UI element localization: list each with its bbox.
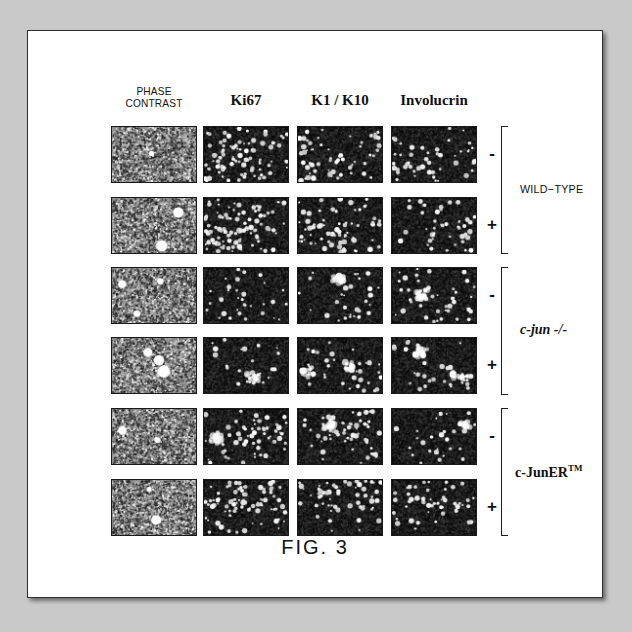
group-bracket-c-jun-null (501, 267, 508, 395)
micrograph-panel-c-juner-tm-plus-phase-contrast (111, 479, 197, 536)
micrograph-image (298, 198, 382, 253)
micrograph-panel-c-jun-null-minus-k1-k10 (297, 267, 383, 324)
micrograph-panel-wild-type-plus-k1-k10 (297, 197, 383, 254)
micrograph-image (298, 480, 382, 535)
patent-figure-page: PHASE CONTRAST Ki67 K1 / K10 Involucrin … (27, 30, 603, 598)
column-header-k1-k10: K1 / K10 (297, 93, 383, 109)
micrograph-image (392, 268, 476, 323)
micrograph-image (392, 480, 476, 535)
micrograph-image (298, 127, 382, 182)
micrograph-image (112, 268, 196, 323)
micrograph-panel-c-jun-null-plus-involucrin (391, 337, 477, 394)
micrograph-image (204, 480, 288, 535)
micrograph-image (392, 198, 476, 253)
column-header-involucrin: Involucrin (383, 93, 485, 109)
micrograph-image (298, 409, 382, 464)
figure-caption: FIG. 3 (28, 536, 602, 559)
column-header-line1: PHASE (114, 86, 193, 98)
micrograph-panel-wild-type-minus-phase-contrast (111, 126, 197, 183)
micrograph-panel-c-juner-tm-plus-k1-k10 (297, 479, 383, 536)
group-label-text: c-JunER (515, 465, 568, 480)
micrograph-panel-wild-type-minus-k1-k10 (297, 126, 383, 183)
treatment-sign-plus-row3: + (485, 355, 499, 375)
column-header-line1: Involucrin (383, 93, 485, 109)
micrograph-image (392, 127, 476, 182)
column-header-ki67: Ki67 (203, 93, 289, 109)
micrograph-panel-c-juner-tm-minus-involucrin (391, 408, 477, 465)
micrograph-panel-c-juner-tm-minus-phase-contrast (111, 408, 197, 465)
micrograph-panel-c-juner-tm-plus-involucrin (391, 479, 477, 536)
micrograph-panel-c-jun-null-plus-k1-k10 (297, 337, 383, 394)
treatment-sign-plus-row1: + (485, 215, 499, 235)
micrograph-panel-c-juner-tm-minus-ki67 (203, 408, 289, 465)
column-header-line1: Ki67 (203, 93, 289, 109)
micrograph-image (392, 409, 476, 464)
micrograph-image (204, 338, 288, 393)
micrograph-panel-wild-type-plus-phase-contrast (111, 197, 197, 254)
group-label-wild-type: WILD−TYPE (520, 183, 583, 195)
micrograph-image (204, 198, 288, 253)
micrograph-image (204, 268, 288, 323)
micrograph-image (112, 127, 196, 182)
group-bracket-wild-type (501, 126, 508, 254)
micrograph-panel-c-jun-null-minus-ki67 (203, 267, 289, 324)
micrograph-panel-c-jun-null-minus-involucrin (391, 267, 477, 324)
column-header-line2: CONTRAST (114, 98, 193, 110)
group-label-c-juner-tm: c-JunERTM (515, 463, 582, 481)
micrograph-image (392, 338, 476, 393)
column-header-phase-contrast: PHASE CONTRAST (114, 86, 193, 109)
micrograph-panel-wild-type-plus-involucrin (391, 197, 477, 254)
micrograph-panel-wild-type-minus-ki67 (203, 126, 289, 183)
micrograph-image (298, 268, 382, 323)
micrograph-image (112, 338, 196, 393)
micrograph-panel-wild-type-minus-involucrin (391, 126, 477, 183)
micrograph-panel-c-jun-null-minus-phase-contrast (111, 267, 197, 324)
micrograph-image (112, 409, 196, 464)
figure-3-container: PHASE CONTRAST Ki67 K1 / K10 Involucrin … (28, 31, 602, 597)
micrograph-panel-c-juner-tm-plus-ki67 (203, 479, 289, 536)
treatment-sign-minus-row2: - (485, 285, 499, 305)
group-label-c-jun-null: c-jun -/- (520, 322, 567, 338)
group-label-text: WILD−TYPE (520, 183, 583, 195)
treatment-sign-plus-row5: + (485, 497, 499, 517)
treatment-sign-minus-row0: - (485, 144, 499, 164)
trademark-superscript: TM (568, 463, 583, 473)
micrograph-image (112, 198, 196, 253)
micrograph-image (112, 480, 196, 535)
micrograph-image (298, 338, 382, 393)
column-header-line1: K1 / K10 (297, 93, 383, 109)
micrograph-panel-wild-type-plus-ki67 (203, 197, 289, 254)
group-label-text: c-jun -/- (520, 322, 567, 337)
treatment-sign-minus-row4: - (485, 426, 499, 446)
micrograph-image (204, 127, 288, 182)
micrograph-panel-c-jun-null-plus-ki67 (203, 337, 289, 394)
micrograph-panel-c-juner-tm-minus-k1-k10 (297, 408, 383, 465)
group-bracket-c-juner-tm (501, 408, 508, 536)
micrograph-panel-c-jun-null-plus-phase-contrast (111, 337, 197, 394)
micrograph-image (204, 409, 288, 464)
